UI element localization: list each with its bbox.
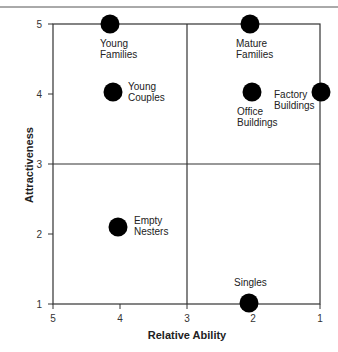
y-tick-label: 3 — [36, 159, 42, 170]
point-factory-buildings — [312, 83, 331, 102]
point-empty-nesters — [109, 218, 128, 237]
x-axis: 5 4 3 2 1 Relative Ability — [50, 304, 323, 341]
label-mature-families: Mature Families — [236, 38, 273, 60]
label-empty-nesters: Empty Nesters — [134, 215, 168, 237]
point-singles — [240, 294, 259, 313]
label-young-couples: Young Couples — [128, 81, 165, 103]
y-tick-label: 4 — [36, 89, 42, 100]
label-young-families: Young Families — [100, 38, 137, 60]
x-tick-label: 4 — [117, 313, 123, 324]
x-tick-label: 3 — [184, 313, 190, 324]
y-tick-label: 1 — [36, 299, 42, 310]
chart: 5 4 3 2 1 Attractiveness 5 4 3 2 1 Relat… — [0, 0, 338, 352]
y-tick-label: 5 — [36, 19, 42, 30]
label-office-buildings: Office Buildings — [237, 106, 278, 128]
point-mature-families — [241, 15, 260, 34]
y-axis: 5 4 3 2 1 Attractiveness — [23, 19, 53, 310]
x-tick-label: 1 — [317, 313, 323, 324]
x-axis-title: Relative Ability — [148, 329, 227, 341]
label-singles: Singles — [234, 277, 267, 288]
y-tick-label: 2 — [36, 229, 42, 240]
point-young-families — [101, 15, 120, 34]
x-tick-label: 2 — [250, 313, 256, 324]
point-young-couples — [104, 83, 123, 102]
point-office-buildings — [243, 83, 262, 102]
label-factory-buildings: Factory Buildings — [274, 89, 315, 111]
point-labels: Young Families Young Couples Mature Fami… — [100, 38, 315, 288]
x-tick-label: 5 — [50, 313, 56, 324]
y-axis-title: Attractiveness — [23, 127, 35, 203]
